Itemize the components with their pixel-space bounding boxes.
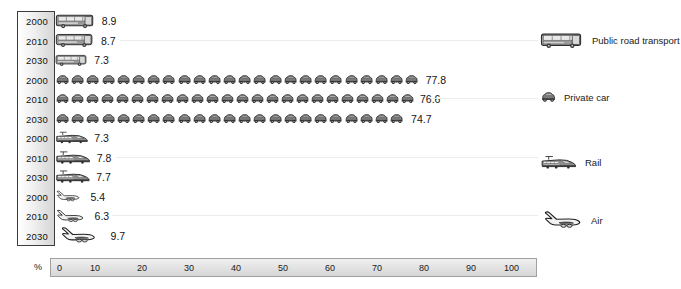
car-icon bbox=[359, 74, 374, 85]
value-label: 5.4 bbox=[90, 191, 105, 203]
chart-row bbox=[55, 89, 415, 109]
car-icon bbox=[283, 74, 298, 85]
car-icon bbox=[252, 113, 267, 124]
car-icon bbox=[359, 113, 374, 124]
car-icon bbox=[222, 113, 237, 124]
plane-icon bbox=[540, 210, 584, 230]
train-icon bbox=[55, 130, 89, 146]
car-icon bbox=[70, 74, 85, 85]
car-icon bbox=[313, 113, 328, 124]
x-axis: % 0102030405060708090100 bbox=[17, 258, 537, 279]
car-icon bbox=[385, 93, 400, 104]
value-label: 8.9 bbox=[102, 15, 117, 27]
axis-tick-label: 70 bbox=[372, 263, 382, 273]
car-icon bbox=[55, 113, 70, 124]
value-label: 76.6 bbox=[420, 93, 440, 105]
value-label: 7.3 bbox=[94, 54, 109, 66]
pictogram-bar bbox=[55, 206, 85, 226]
axis-tick-label: 30 bbox=[184, 263, 194, 273]
car-icon bbox=[55, 74, 70, 85]
car-icon bbox=[207, 113, 222, 124]
chart-row bbox=[55, 31, 96, 51]
car-icon bbox=[222, 74, 237, 85]
car-icon bbox=[237, 113, 252, 124]
bus-icon bbox=[540, 32, 585, 49]
car-icon bbox=[235, 93, 250, 104]
bus-icon bbox=[55, 52, 89, 69]
train-icon bbox=[540, 155, 578, 170]
car-icon bbox=[207, 74, 222, 85]
car-icon bbox=[374, 74, 389, 85]
car-icon bbox=[160, 93, 175, 104]
legend-label: Public road transport bbox=[592, 35, 680, 46]
value-label: 9.7 bbox=[111, 230, 126, 242]
bus-icon bbox=[55, 32, 96, 49]
car-icon bbox=[175, 93, 190, 104]
car-icon bbox=[85, 93, 100, 104]
leader-line bbox=[112, 215, 538, 216]
car-icon bbox=[85, 74, 100, 85]
pictogram-bar bbox=[55, 89, 415, 109]
legend-item: Public road transport bbox=[540, 32, 680, 49]
car-icon bbox=[85, 113, 100, 124]
legend-label: Air bbox=[591, 215, 603, 226]
chart-row bbox=[55, 148, 92, 168]
car-icon bbox=[340, 93, 355, 104]
car-icon bbox=[280, 93, 295, 104]
train-icon bbox=[540, 155, 578, 170]
bus-icon bbox=[55, 13, 97, 30]
train-icon bbox=[55, 169, 91, 185]
value-label: 7.7 bbox=[96, 171, 111, 183]
car-icon bbox=[344, 74, 359, 85]
leader-line bbox=[432, 98, 538, 99]
car-icon bbox=[192, 74, 207, 85]
chart-row bbox=[55, 226, 101, 246]
car-icon bbox=[328, 74, 343, 85]
value-label: 7.8 bbox=[97, 152, 112, 164]
car-icon bbox=[70, 93, 85, 104]
car-icon bbox=[265, 93, 280, 104]
plane-icon bbox=[55, 187, 80, 206]
car-icon bbox=[116, 74, 131, 85]
plane-icon bbox=[55, 226, 101, 245]
value-label: 6.3 bbox=[95, 210, 110, 222]
legend-item: Air bbox=[540, 210, 603, 230]
car-icon bbox=[268, 113, 283, 124]
pictogram-bar bbox=[55, 70, 421, 90]
train-icon bbox=[55, 150, 92, 166]
chart-row bbox=[55, 167, 91, 187]
chart-row bbox=[55, 128, 89, 148]
plane-icon bbox=[540, 210, 584, 230]
car-icon bbox=[389, 74, 404, 85]
chart-row bbox=[55, 206, 85, 226]
pictogram-bar bbox=[55, 128, 89, 148]
legend-item: Private car bbox=[540, 91, 609, 103]
car-icon bbox=[355, 93, 370, 104]
pictogram-bar bbox=[55, 148, 92, 168]
car-icon bbox=[389, 113, 404, 124]
axis-tick-label: 50 bbox=[278, 263, 288, 273]
car-icon bbox=[161, 74, 176, 85]
axis-tick-label: 0 bbox=[57, 263, 62, 273]
car-icon bbox=[540, 91, 557, 103]
car-icon bbox=[70, 113, 85, 124]
car-icon bbox=[101, 74, 116, 85]
chart-row bbox=[55, 50, 89, 70]
car-icon bbox=[116, 113, 131, 124]
value-label: 77.8 bbox=[426, 74, 446, 86]
car-icon bbox=[192, 113, 207, 124]
car-icon bbox=[404, 74, 419, 85]
plane-icon bbox=[55, 207, 85, 226]
pictogram-bar bbox=[55, 187, 80, 207]
chart-row bbox=[55, 109, 406, 129]
car-icon bbox=[295, 93, 310, 104]
car-icon bbox=[374, 113, 389, 124]
pictogram-bar bbox=[55, 31, 96, 51]
axis-scale-bar: 0102030405060708090100 bbox=[50, 258, 537, 277]
bus-icon bbox=[540, 32, 585, 49]
car-icon bbox=[146, 113, 161, 124]
car-icon bbox=[252, 74, 267, 85]
axis-tick-label: 10 bbox=[90, 263, 100, 273]
car-icon bbox=[190, 93, 205, 104]
car-icon bbox=[161, 113, 176, 124]
